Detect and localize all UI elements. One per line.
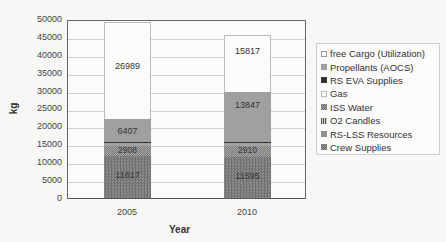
segment-gas-rs-eva bbox=[224, 142, 271, 147]
x-tick-2005: 2005 bbox=[97, 207, 157, 217]
segment-propellants: 6407 bbox=[104, 119, 151, 142]
legend-item-iss-water: ISS Water bbox=[321, 101, 435, 114]
legend-item-gas: Gas bbox=[321, 87, 435, 100]
segment-gas-rs-eva bbox=[104, 142, 151, 147]
legend-item-propellants: Propellants (AOCS) bbox=[321, 60, 435, 73]
value-label: 2908 bbox=[104, 145, 151, 155]
legend-label: Gas bbox=[330, 88, 347, 99]
legend-swatch bbox=[321, 144, 327, 150]
segment-free-cargo: 26989 bbox=[104, 22, 151, 119]
x-tick-2010: 2010 bbox=[217, 207, 277, 217]
legend-label: RS-LSS Resources bbox=[330, 129, 412, 140]
segment-crew-supplies: 11617 bbox=[104, 156, 151, 198]
value-label: 13847 bbox=[224, 100, 271, 110]
legend-label: Crew Supplies bbox=[330, 142, 391, 153]
value-label: 15817 bbox=[225, 46, 270, 56]
value-label: 11595 bbox=[224, 171, 271, 181]
legend-item-rs-lss: RS-LSS Resources bbox=[321, 127, 435, 140]
y-tick: 45000 bbox=[0, 32, 62, 42]
legend-swatch bbox=[321, 104, 327, 110]
y-tick: 50000 bbox=[0, 14, 62, 24]
y-tick: 30000 bbox=[0, 86, 62, 96]
y-tick: 0 bbox=[0, 193, 62, 203]
legend-label: RS EVA Supplies bbox=[330, 75, 403, 86]
y-tick: 15000 bbox=[0, 139, 62, 149]
legend-item-o2-candles: O2 Candles bbox=[321, 114, 435, 127]
segment-rs-lss-water-o2: 2908 bbox=[104, 146, 151, 156]
y-tick: 40000 bbox=[0, 50, 62, 60]
legend-swatch bbox=[321, 118, 327, 124]
legend-label: Propellants (AOCS) bbox=[330, 62, 413, 73]
legend: free Cargo (Utilization) Propellants (AO… bbox=[316, 43, 440, 155]
segment-rs-lss-water-o2: 2910 bbox=[224, 146, 271, 156]
value-label: 26989 bbox=[105, 61, 150, 71]
legend-item-free-cargo: free Cargo (Utilization) bbox=[321, 47, 435, 60]
legend-item-crew-supplies: Crew Supplies bbox=[321, 141, 435, 154]
bar-2010: 11595 2910 13847 15817 bbox=[224, 35, 271, 198]
legend-swatch bbox=[321, 77, 327, 83]
segment-crew-supplies: 11595 bbox=[224, 157, 271, 199]
segment-free-cargo: 15817 bbox=[224, 35, 271, 92]
legend-label: O2 Candles bbox=[330, 115, 380, 126]
legend-swatch bbox=[321, 64, 327, 70]
bar-2005: 11617 2908 6407 26989 bbox=[104, 22, 151, 198]
value-label: 6407 bbox=[104, 126, 151, 136]
value-label: 2910 bbox=[224, 145, 271, 155]
y-tick: 10000 bbox=[0, 157, 62, 167]
y-tick: 5000 bbox=[0, 175, 62, 185]
y-tick: 35000 bbox=[0, 68, 62, 78]
legend-swatch bbox=[321, 131, 327, 137]
segment-propellants: 13847 bbox=[224, 92, 271, 142]
y-tick: 25000 bbox=[0, 103, 62, 113]
legend-swatch bbox=[321, 91, 327, 97]
legend-label: ISS Water bbox=[330, 102, 373, 113]
legend-item-rs-eva: RS EVA Supplies bbox=[321, 74, 435, 87]
plot-area: 11617 2908 6407 26989 11595 2910 13847 1… bbox=[67, 20, 306, 199]
x-axis-label: Year bbox=[169, 224, 190, 235]
legend-label: free Cargo (Utilization) bbox=[330, 48, 425, 59]
value-label: 11617 bbox=[104, 170, 151, 180]
y-tick: 20000 bbox=[0, 121, 62, 131]
legend-swatch bbox=[321, 51, 327, 57]
